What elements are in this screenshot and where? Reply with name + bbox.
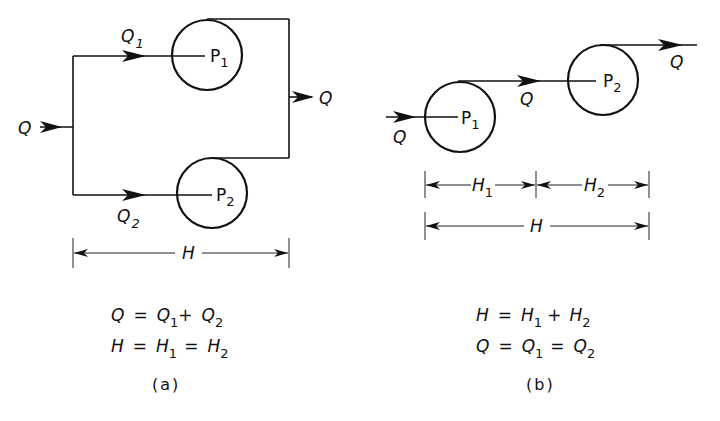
panel-b-series-pumps: Q P1 Q P2 Q H1 H2	[386, 39, 697, 394]
panel-b-inflow: Q	[386, 111, 458, 147]
panel-b-outflow: Q	[600, 39, 697, 72]
h1-dimension-label: H1	[472, 175, 493, 200]
caption-b: (b)	[526, 375, 555, 394]
panel-a-head-dimension: H	[73, 238, 289, 268]
caption-a: (a)	[152, 375, 180, 394]
pump-p1-label: P1	[210, 46, 229, 70]
panel-a-inflow: Q	[18, 118, 73, 138]
top-branch-flow-label: Q1	[121, 26, 144, 51]
panel-b-middle-flow: Q	[458, 75, 596, 109]
inflow-label: Q	[18, 118, 31, 138]
panel-a-top-branch: Q1 P1	[73, 19, 289, 90]
pump-p2-label: P2	[603, 71, 622, 95]
head-dimension-label: H	[530, 216, 543, 236]
pump-p2-label: P2	[216, 185, 235, 209]
panel-b-total-head-dimension: H	[425, 212, 649, 240]
h2-dimension-label: H2	[584, 175, 605, 200]
inflow-label: Q	[393, 127, 406, 147]
outflow-label: Q	[319, 88, 332, 108]
panel-b-equations: H=H1+H2 Q=Q1=Q2 (b)	[476, 305, 595, 394]
bottom-branch-flow-label: Q2	[117, 206, 140, 231]
middle-flow-label: Q	[520, 89, 533, 109]
pump-p2-circle	[177, 158, 247, 228]
equation-head: H=H1+H2	[476, 305, 590, 330]
head-dimension-label: H	[182, 243, 195, 263]
outflow-label: Q	[670, 52, 683, 72]
equation-head: H=H1=H2	[111, 336, 228, 361]
panel-a-parallel-pumps: Q Q1 P1 Q2 P2 Q	[18, 19, 332, 394]
pump-p1-label: P1	[461, 108, 480, 132]
panel-a-outflow: Q	[289, 88, 332, 108]
pump-p1-circle	[172, 20, 242, 90]
panel-a-bottom-branch: Q2 P2	[73, 158, 289, 231]
panel-a-equations: Q=Q1+Q2 H=H1=H2 (a)	[111, 305, 228, 394]
panel-b-partial-head-dimensions: H1 H2	[425, 171, 649, 200]
equation-flow: Q=Q1=Q2	[476, 336, 595, 361]
equation-flow: Q=Q1+Q2	[111, 305, 223, 330]
pump-configuration-diagram: Q Q1 P1 Q2 P2 Q	[0, 0, 720, 421]
